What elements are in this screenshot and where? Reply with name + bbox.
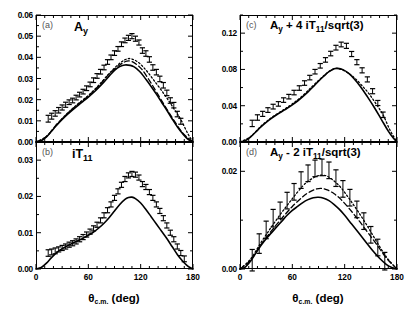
curve-solid bbox=[240, 197, 397, 269]
title-part-3: 11 bbox=[316, 25, 325, 34]
xtick-label: 180 bbox=[186, 272, 200, 282]
panel-c-tag: (c) bbox=[246, 20, 257, 30]
title-part-2: - 2 iT bbox=[283, 146, 313, 158]
xaxis-unit: (deg) bbox=[112, 292, 140, 304]
xaxis-unit: (deg) bbox=[316, 292, 344, 304]
xtick-label: 120 bbox=[338, 272, 352, 282]
ytick-label: 0.03 bbox=[18, 155, 33, 165]
data-errorbars bbox=[250, 42, 386, 126]
panel-c: 0.000.040.080.12 (c) Ay + 4 iT11/sqrt(3) bbox=[204, 0, 408, 160]
panel-d-xaxis-title: θc.m. (deg) bbox=[292, 292, 343, 305]
panel-b-title-main: iT bbox=[72, 147, 83, 161]
title-part-4: /sqrt(3) bbox=[322, 146, 361, 158]
curve-solid bbox=[36, 197, 193, 269]
panel-d-title: Ay - 2 iT11/sqrt(3) bbox=[270, 146, 361, 161]
title-part-3: 11 bbox=[313, 152, 322, 161]
curve-solid bbox=[240, 68, 397, 142]
panel-b-tag: (b) bbox=[42, 147, 53, 157]
ytick-label: 0.02 bbox=[18, 95, 33, 105]
ytick-label: 0.02 bbox=[18, 191, 33, 201]
xtick-label: 60 bbox=[288, 272, 297, 282]
panel-d-tag: (d) bbox=[246, 147, 257, 157]
xtick-label: 120 bbox=[134, 272, 148, 282]
ytick-label: 0.02 bbox=[222, 166, 237, 176]
curve-dashed bbox=[240, 188, 397, 269]
panel-a: 0.000.010.020.030.040.050.06 (a) Ay bbox=[0, 0, 204, 160]
ytick-label: 0.05 bbox=[18, 31, 33, 41]
theta-subscript: c.m. bbox=[299, 298, 313, 305]
xtick-label: 0 bbox=[34, 272, 39, 282]
panel-b-xaxis-title: θc.m. (deg) bbox=[88, 292, 139, 305]
ytick-label: 0.12 bbox=[222, 28, 237, 38]
xtick-label: 0 bbox=[238, 272, 243, 282]
panel-a-title-main: A bbox=[74, 20, 83, 34]
xtick-label: 60 bbox=[84, 272, 93, 282]
ytick-label: 0.03 bbox=[18, 74, 33, 84]
panel-a-title-sub: y bbox=[83, 26, 88, 36]
ytick-label: 0.00 bbox=[222, 264, 237, 274]
data-errorbars bbox=[46, 34, 184, 125]
figure-root: 0.000.010.020.030.040.050.06 (a) Ay 0.00… bbox=[0, 0, 408, 318]
panel-b: 0.000.010.020.03 060120180 (b) iT11 θc.m… bbox=[0, 142, 204, 318]
panel-b-title: iT11 bbox=[72, 147, 93, 163]
panel-c-title: Ay + 4 iT11/sqrt(3) bbox=[270, 19, 364, 34]
data-errorbars bbox=[46, 171, 187, 261]
ytick-label: 0.01 bbox=[18, 228, 33, 238]
ytick-label: 0.08 bbox=[222, 64, 237, 74]
ytick-label: 0.04 bbox=[222, 101, 237, 111]
ytick-label: 0.06 bbox=[18, 10, 33, 20]
xtick-label: 180 bbox=[390, 272, 404, 282]
panel-a-tag: (a) bbox=[42, 20, 53, 30]
panel-d: 0.000.02 060120180 (d) Ay - 2 iT11/sqrt(… bbox=[204, 142, 408, 318]
panel-a-title: Ay bbox=[74, 20, 88, 36]
ytick-label: 0.00 bbox=[18, 264, 33, 274]
title-part-4: /sqrt(3) bbox=[325, 19, 364, 31]
panel-b-title-sub: 11 bbox=[83, 153, 93, 163]
theta-subscript: c.m. bbox=[95, 298, 109, 305]
ytick-label: 0.04 bbox=[18, 52, 33, 62]
curve-dotted bbox=[240, 175, 397, 269]
ytick-label: 0.01 bbox=[18, 116, 33, 126]
title-part-2: + 4 iT bbox=[283, 19, 316, 31]
